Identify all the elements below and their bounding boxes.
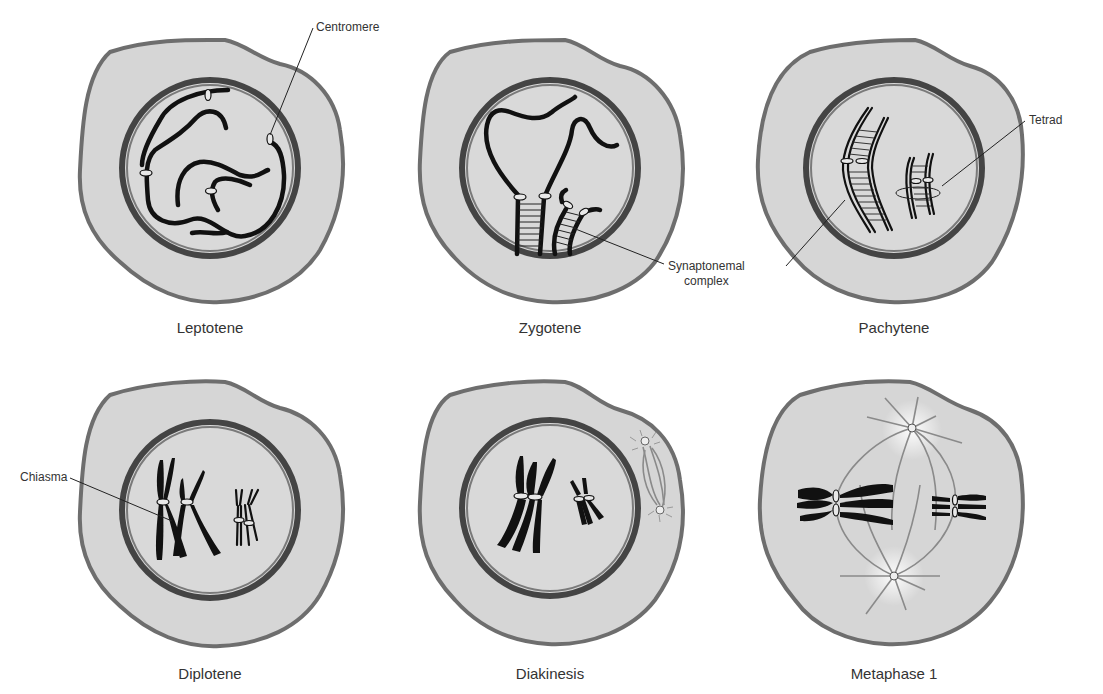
- centrosome: [890, 572, 898, 580]
- panel-metaphase1: Metaphase 1: [760, 381, 1023, 682]
- stage-label-diakinesis: Diakinesis: [516, 665, 584, 682]
- centromere: [514, 194, 526, 200]
- centromere: [140, 170, 152, 176]
- panel-diakinesis: Diakinesis: [420, 381, 683, 682]
- callout-chiasma: Chiasma: [20, 470, 68, 484]
- callout-synaptonemal-line2: complex: [684, 274, 729, 288]
- stage-label-diplotene: Diplotene: [178, 665, 241, 682]
- nucleus: [122, 422, 298, 598]
- nucleus: [462, 420, 638, 596]
- centromere: [205, 90, 211, 101]
- callout-centromere: Centromere: [316, 20, 380, 34]
- panel-diplotene: Chiasma Diplotene: [20, 381, 343, 682]
- centromere: [206, 188, 217, 194]
- stage-label-leptotene: Leptotene: [177, 319, 244, 336]
- centrosome: [908, 424, 916, 432]
- stage-label-metaphase1: Metaphase 1: [851, 665, 938, 682]
- callout-synaptonemal-line1: Synaptonemal: [668, 259, 745, 273]
- centromere: [267, 134, 273, 145]
- nucleus: [806, 80, 982, 256]
- nucleus: [462, 80, 638, 256]
- callout-tetrad: Tetrad: [1029, 113, 1062, 127]
- panel-leptotene: Centromere Leptotene: [80, 20, 380, 336]
- panel-zygotene: Synaptonemal complex Zygotene: [420, 40, 745, 336]
- stage-label-zygotene: Zygotene: [519, 319, 582, 336]
- meiosis-diagram: Centromere Leptotene: [0, 0, 1103, 694]
- stage-label-pachytene: Pachytene: [859, 319, 930, 336]
- centromere: [181, 499, 193, 505]
- centromere: [539, 193, 551, 199]
- centromere: [157, 499, 169, 505]
- panel-pachytene: Tetrad Pachytene: [758, 40, 1063, 336]
